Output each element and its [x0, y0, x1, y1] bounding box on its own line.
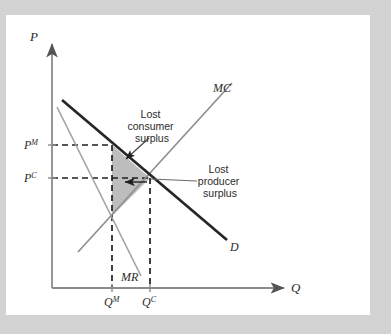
tick-label-price-monopoly-sup: M [30, 138, 39, 147]
lost-consumer-surplus-annotation: Lost consumer surplus [127, 108, 176, 144]
lost-producer-surplus-line-2: producer [198, 175, 240, 187]
demand-label: D [229, 240, 239, 254]
lost-consumer-surplus-line-2: consumer [127, 120, 174, 132]
tick-label-quantity-competitive-base: Q [142, 295, 151, 309]
lost-producer-surplus-line-3: surplus [203, 187, 237, 199]
tick-label-price-competitive: PC [23, 171, 37, 185]
tick-label-quantity-monopoly-sup: M [112, 295, 121, 304]
y-axis-label: P [29, 29, 38, 44]
economics-diagram: P Q MC D MR PM PC QM QC Lost consumer su… [0, 0, 391, 334]
marginal-cost-label: MC [212, 81, 232, 95]
tick-label-price-competitive-sup: C [31, 171, 37, 180]
tick-label-price-monopoly: PM [23, 138, 39, 152]
lost-producer-surplus-annotation: Lost producer surplus [198, 163, 242, 199]
lost-consumer-surplus-line-3: surplus [135, 132, 169, 144]
lost-consumer-surplus-line-1: Lost [141, 108, 161, 120]
tick-label-quantity-monopoly-base: Q [104, 295, 113, 309]
marginal-revenue-label: MR [120, 270, 139, 284]
lost-producer-surplus-line-1: Lost [209, 163, 229, 175]
tick-label-quantity-monopoly: QM [104, 295, 121, 309]
tick-label-quantity-competitive: QC [142, 295, 157, 309]
tick-label-quantity-competitive-sup: C [151, 295, 157, 304]
x-axis-label: Q [291, 280, 301, 295]
figure-frame: P Q MC D MR PM PC QM QC Lost consumer su… [0, 0, 391, 334]
